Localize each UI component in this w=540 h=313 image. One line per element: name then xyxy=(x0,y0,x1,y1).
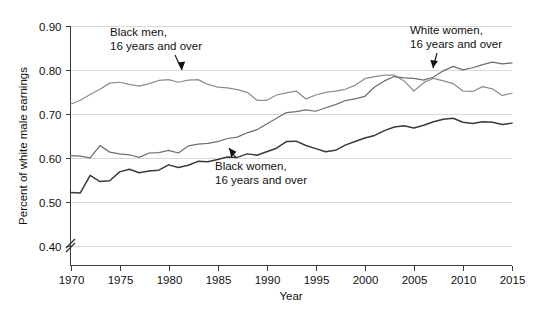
earnings-ratio-chart: 0.400.500.600.700.800.90 197019751980198… xyxy=(0,0,540,313)
x-tick-label: 1980 xyxy=(157,274,183,286)
annotation-black-women-line2: 16 years and over xyxy=(215,174,307,186)
x-tick-label: 1985 xyxy=(206,274,232,286)
series-line-white-women xyxy=(71,62,513,158)
annotation-black-men-arrowhead xyxy=(178,62,186,70)
y-tick-label: 0.80 xyxy=(39,65,61,77)
x-tick-label: 2010 xyxy=(451,274,477,286)
x-tick-label: 2005 xyxy=(402,274,428,286)
annotation-white-women-arrowhead xyxy=(430,60,438,68)
y-tick-label: 0.90 xyxy=(39,21,61,33)
y-axis-ticks-group: 0.400.500.600.700.800.90 xyxy=(39,21,70,253)
x-axis-ticks-group: 1970197519801985199019952000200520102015 xyxy=(59,266,526,286)
x-tick-label: 1990 xyxy=(255,274,281,286)
gridlines-group xyxy=(71,27,513,247)
annotation-black-men-line1: Black men, xyxy=(110,26,167,38)
x-tick-label: 2015 xyxy=(500,274,526,286)
annotation-white-women-line2: 16 years and over xyxy=(410,38,502,50)
y-tick-label: 0.70 xyxy=(39,109,61,121)
chart-svg: 0.400.500.600.700.800.90 197019751980198… xyxy=(0,0,540,313)
x-tick-label: 1970 xyxy=(59,274,85,286)
x-axis-title: Year xyxy=(279,290,302,302)
x-tick-label: 1975 xyxy=(108,274,134,286)
x-tick-label: 2000 xyxy=(353,274,379,286)
annotation-black-women-line1: Black women, xyxy=(215,160,287,172)
y-tick-label: 0.50 xyxy=(39,197,61,209)
y-tick-label: 0.40 xyxy=(39,241,61,253)
annotation-black-women-arrowhead xyxy=(229,148,236,157)
x-tick-label: 1995 xyxy=(304,274,330,286)
annotation-white-women: White women, 16 years and over xyxy=(410,24,502,68)
y-axis-title: Percent of white male earnings xyxy=(17,67,29,225)
annotation-black-men-line2: 16 years and over xyxy=(110,40,202,52)
annotation-white-women-line1: White women, xyxy=(410,24,483,36)
series-line-black-men xyxy=(71,75,513,104)
y-tick-label: 0.60 xyxy=(39,153,61,165)
annotation-black-men: Black men, 16 years and over xyxy=(110,26,202,70)
